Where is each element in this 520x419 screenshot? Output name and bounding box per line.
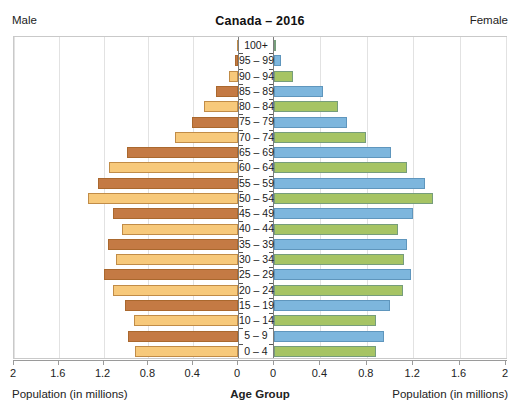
row-tick <box>239 344 243 345</box>
male-bar <box>88 193 238 204</box>
male-bar <box>104 269 238 280</box>
row-tick <box>269 160 273 161</box>
axis-tick-label: 0.4 <box>312 367 327 379</box>
row-tick <box>269 176 273 177</box>
row-tick <box>269 53 273 54</box>
female-bar <box>274 162 407 173</box>
axis-tick <box>319 360 320 365</box>
row-tick <box>269 221 273 222</box>
male-bar <box>125 300 238 311</box>
row-tick <box>269 283 273 284</box>
female-bar <box>274 300 390 311</box>
row-tick <box>239 328 243 329</box>
age-group-label: 95 – 99 <box>239 53 273 68</box>
row-tick <box>239 160 243 161</box>
female-bar <box>274 117 347 128</box>
female-bar <box>274 315 376 326</box>
age-group-label: 25 – 29 <box>239 267 273 282</box>
female-bar <box>274 208 413 219</box>
female-bar <box>274 71 293 82</box>
age-group-label: 60 – 64 <box>239 160 273 175</box>
axis-tick <box>412 360 413 365</box>
age-group-label: 40 – 44 <box>239 221 273 236</box>
row-tick <box>239 130 243 131</box>
age-group-label: 20 – 24 <box>239 283 273 298</box>
male-bar <box>128 331 238 342</box>
row-tick <box>239 267 243 268</box>
row-tick <box>269 344 273 345</box>
row-tick <box>239 176 243 177</box>
age-group-label: 50 – 54 <box>239 191 273 206</box>
axis-tick-label: 0 <box>270 367 276 379</box>
axis-tick-label: 0.4 <box>185 367 200 379</box>
female-bar <box>274 147 391 158</box>
axis-tick-label: 0.8 <box>358 367 373 379</box>
row-tick <box>269 84 273 85</box>
x-axis-title-right: Population (in millions) <box>392 388 508 400</box>
male-bar <box>192 117 238 128</box>
row-tick <box>269 114 273 115</box>
row-tick <box>239 298 243 299</box>
age-group-label: 90 – 94 <box>239 69 273 84</box>
gridline <box>506 37 507 358</box>
row-tick <box>269 191 273 192</box>
male-bar <box>98 178 238 189</box>
row-tick <box>239 84 243 85</box>
axis-tick <box>103 360 104 365</box>
population-pyramid-figure: Male Canada – 2016 Female 100+95 – 9990 … <box>0 0 520 419</box>
x-axis-line <box>13 360 507 361</box>
row-tick <box>269 298 273 299</box>
axis-tick-label: 2 <box>502 367 508 379</box>
age-group-label: 85 – 89 <box>239 84 273 99</box>
axis-tick <box>147 360 148 365</box>
row-tick <box>239 53 243 54</box>
row-tick <box>239 252 243 253</box>
male-bar <box>135 346 238 357</box>
male-bar <box>113 285 238 296</box>
chart-header: Male Canada – 2016 Female <box>0 14 520 32</box>
row-tick <box>269 145 273 146</box>
age-group-label: 15 – 19 <box>239 298 273 313</box>
age-group-label: 0 – 4 <box>239 344 273 359</box>
age-group-label: 35 – 39 <box>239 237 273 252</box>
row-tick <box>239 145 243 146</box>
row-tick <box>239 69 243 70</box>
axis-tick-label: 1.2 <box>405 367 420 379</box>
axis-tick-label: 1.2 <box>95 367 110 379</box>
female-bar <box>274 55 281 66</box>
male-bar <box>216 86 238 97</box>
male-bar <box>108 239 238 250</box>
row-tick <box>239 206 243 207</box>
age-group-label: 55 – 59 <box>239 176 273 191</box>
male-bar <box>175 132 238 143</box>
row-tick <box>269 237 273 238</box>
female-bar <box>274 178 425 189</box>
row-tick <box>269 267 273 268</box>
axis-tick <box>273 360 274 365</box>
axis-tick <box>192 360 193 365</box>
age-group-label-band: 100+95 – 9990 – 9485 – 8980 – 8475 – 797… <box>238 37 274 358</box>
axis-tick <box>505 360 506 365</box>
male-bar <box>127 147 238 158</box>
row-tick <box>239 237 243 238</box>
axis-tick <box>13 360 14 365</box>
row-tick <box>239 283 243 284</box>
age-group-label: 75 – 79 <box>239 114 273 129</box>
row-tick <box>269 313 273 314</box>
axis-tick <box>58 360 59 365</box>
male-bar <box>109 162 238 173</box>
row-tick <box>269 99 273 100</box>
plot-area: 100+95 – 9990 – 9485 – 8980 – 8475 – 797… <box>13 36 507 359</box>
axis-tick <box>366 360 367 365</box>
male-bar <box>113 208 238 219</box>
female-bar <box>274 239 407 250</box>
row-tick <box>239 221 243 222</box>
row-tick <box>239 99 243 100</box>
row-tick <box>239 191 243 192</box>
row-tick <box>269 252 273 253</box>
axis-tick-label: 0.8 <box>140 367 155 379</box>
female-bar <box>274 224 398 235</box>
row-tick <box>269 130 273 131</box>
male-bar <box>134 315 238 326</box>
age-group-label: 45 – 49 <box>239 206 273 221</box>
